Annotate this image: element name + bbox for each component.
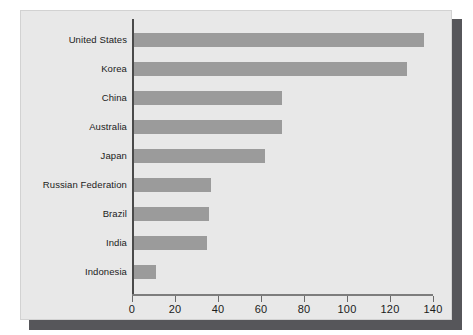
x-tick-100 [347, 296, 348, 302]
category-label-indonesia: Indonesia [0, 266, 127, 277]
x-tick-80 [304, 296, 305, 302]
x-tick-20 [175, 296, 176, 302]
bar-korea [134, 62, 407, 76]
x-tick-140 [433, 296, 434, 302]
category-label-australia: Australia [0, 121, 127, 132]
x-tick-0 [132, 296, 133, 302]
bar-russian-federation [134, 178, 211, 192]
x-tick-label-140: 140 [413, 303, 453, 315]
x-tick-40 [218, 296, 219, 302]
bar-brazil [134, 207, 209, 221]
x-tick-label-100: 100 [327, 303, 367, 315]
x-axis-line [132, 294, 433, 296]
bar-indonesia [134, 265, 156, 279]
category-label-russian-federation: Russian Federation [0, 179, 127, 190]
category-label-united-states: United States [0, 34, 127, 45]
bar-india [134, 236, 207, 250]
x-tick-60 [261, 296, 262, 302]
chart-panel: United StatesKoreaChinaAustraliaJapanRus… [20, 10, 452, 320]
x-tick-label-120: 120 [370, 303, 410, 315]
category-label-china: China [0, 92, 127, 103]
category-label-india: India [0, 237, 127, 248]
x-tick-120 [390, 296, 391, 302]
x-tick-label-40: 40 [198, 303, 238, 315]
plot-area: United StatesKoreaChinaAustraliaJapanRus… [21, 11, 453, 321]
bar-united-states [134, 33, 424, 47]
x-tick-label-80: 80 [284, 303, 324, 315]
chart-figure: United StatesKoreaChinaAustraliaJapanRus… [0, 0, 473, 335]
bar-japan [134, 149, 265, 163]
category-label-japan: Japan [0, 150, 127, 161]
x-tick-label-60: 60 [241, 303, 281, 315]
x-tick-label-0: 0 [112, 303, 152, 315]
x-tick-label-20: 20 [155, 303, 195, 315]
bar-australia [134, 120, 282, 134]
category-label-korea: Korea [0, 63, 127, 74]
bar-china [134, 91, 282, 105]
category-label-brazil: Brazil [0, 208, 127, 219]
